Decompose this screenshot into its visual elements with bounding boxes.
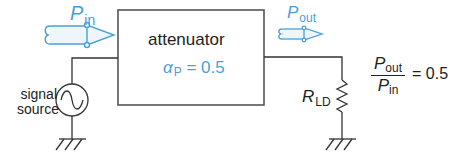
input-wire bbox=[72, 58, 118, 84]
output-power-arrow-icon bbox=[279, 26, 322, 42]
attenuator-label: attenuator bbox=[148, 30, 225, 50]
signal-source-label: signal source bbox=[17, 87, 57, 117]
attenuation-parameter: αP = 0.5 bbox=[163, 58, 225, 78]
attenuator-diagram: Pin Pout attenuator αP = 0.5 signal sour… bbox=[0, 0, 473, 163]
signal-source-icon bbox=[56, 84, 88, 116]
ground-icon bbox=[326, 139, 356, 150]
input-power-arrow-icon bbox=[45, 23, 114, 48]
output-wire bbox=[264, 57, 342, 80]
ratio-denominator: Pin bbox=[371, 77, 405, 96]
resistor-icon bbox=[337, 80, 347, 112]
output-power-label: Pout bbox=[287, 3, 316, 23]
ground-icon bbox=[56, 139, 86, 150]
power-ratio-fraction: Pout Pin bbox=[371, 55, 405, 96]
ratio-numerator: Pout bbox=[371, 55, 405, 74]
ratio-value: = 0.5 bbox=[412, 65, 448, 83]
input-power-label: Pin bbox=[70, 2, 95, 25]
load-resistor-label: RLD bbox=[302, 87, 331, 107]
